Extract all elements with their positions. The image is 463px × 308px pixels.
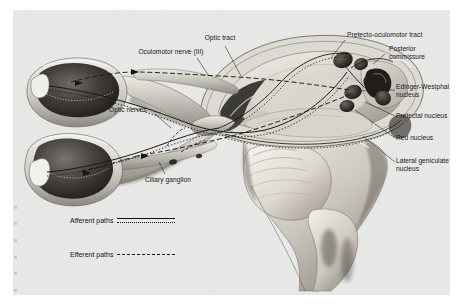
label-pretectal-nucleus: Pretectal nucleus bbox=[396, 112, 450, 120]
label-optic-tract: Optic tract bbox=[189, 34, 251, 42]
legend-afferent: Afferent paths bbox=[70, 216, 175, 224]
label-ciliary-ganglion: Ciliary ganglion bbox=[145, 176, 207, 184]
label-lateral-geniculate-nucleus: Lateral geniculate nucleus bbox=[396, 157, 450, 173]
legend-afferent-key bbox=[117, 217, 175, 224]
label-pretecto-oculomotor-tract: Pretecto-oculomotor tract bbox=[347, 31, 450, 39]
label-oculomotor-nerve: Oculomotor nerve (III) bbox=[123, 48, 219, 56]
efferent-dashed-line bbox=[117, 254, 175, 255]
label-red-nucleus: Red nucleus bbox=[396, 134, 450, 142]
legend-afferent-label: Afferent paths bbox=[70, 217, 113, 224]
page-edge-artifacts bbox=[13, 206, 22, 295]
afferent-dotted-line bbox=[117, 222, 175, 223]
legend-efferent-label: Efferent paths bbox=[70, 251, 113, 258]
figure-panel: Optic tract Oculomotor nerve (III) Prete… bbox=[13, 10, 450, 295]
label-edinger-westphal-nucleus: Edinger-Westphal nucleus bbox=[396, 83, 450, 99]
legend-efferent-key bbox=[117, 252, 175, 257]
label-optic-nerves: Optic nerves bbox=[109, 106, 163, 114]
label-posterior-commissure: Posterior commissure bbox=[389, 45, 450, 61]
legend-efferent: Efferent paths bbox=[70, 250, 175, 258]
afferent-solid-line bbox=[117, 218, 175, 220]
